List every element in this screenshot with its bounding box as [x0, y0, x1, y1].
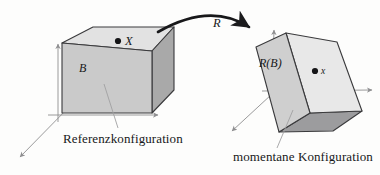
current-body-label: R(B)	[259, 57, 282, 69]
material-point-label: X	[125, 35, 133, 48]
reference-body-label: B	[79, 62, 86, 74]
spatial-point-label: x	[321, 67, 325, 77]
spatial-point-x-dot	[312, 68, 318, 74]
current-configuration-caption: momentane Konfiguration	[233, 150, 373, 163]
reference-configuration-caption: Referenzkonfiguration	[63, 132, 183, 145]
continuum-mechanics-figure: X B R R(B) x Referenzkonfiguration momen…	[0, 0, 380, 175]
reference-box-face-front	[62, 43, 152, 113]
material-point-X-dot	[115, 38, 121, 44]
rotation-map-label: R	[213, 17, 221, 30]
current-configuration-box	[256, 33, 362, 132]
